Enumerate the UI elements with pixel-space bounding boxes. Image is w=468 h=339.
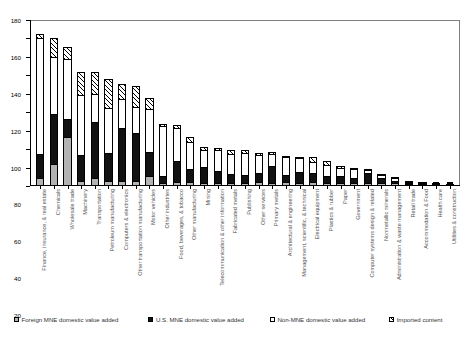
legend-swatch-nonmne xyxy=(270,317,275,322)
bar-segment-usmne xyxy=(64,120,70,138)
bar-segment-nonmne xyxy=(78,96,84,156)
bar-segment-foreign xyxy=(160,184,166,185)
bar-8 xyxy=(145,98,153,186)
x-label-15: Publishing xyxy=(247,189,253,215)
x-label-8: Motor vehicles xyxy=(151,189,157,225)
bar-slot xyxy=(279,20,293,186)
bar-21 xyxy=(323,161,331,186)
bar-slot xyxy=(416,20,430,186)
bar-segment-usmne xyxy=(419,184,425,185)
x-label-25: Nonmetallic minerals xyxy=(384,189,390,241)
bar-11 xyxy=(186,137,194,186)
bar-segment-nonmne xyxy=(296,159,302,173)
bar-segment-foreign xyxy=(269,184,275,185)
bar-slot xyxy=(402,20,416,186)
bar-segment-nonmne xyxy=(283,158,289,177)
legend-item-foreign: Foreign MNE domestic value added xyxy=(14,316,118,323)
bar-segment-imported xyxy=(146,99,152,110)
bar-segment-usmne xyxy=(283,176,289,183)
plot-area: 020406080100120140160180 xyxy=(30,20,460,186)
y-tick-label-180: 180 xyxy=(11,18,21,24)
x-label-13: Telecommunication & other information xyxy=(220,189,226,286)
bar-slot xyxy=(388,20,402,186)
bar-segment-usmne xyxy=(296,173,302,184)
bar-segment-nonmne xyxy=(187,143,193,170)
x-label-22: Paper xyxy=(343,189,349,204)
bar-segment-usmne xyxy=(228,175,234,184)
bar-segment-foreign xyxy=(392,184,398,185)
bar-segment-foreign xyxy=(201,184,207,185)
legend-swatch-usmne xyxy=(148,317,153,322)
bar-14 xyxy=(227,150,235,186)
x-label-2: Wholesale trade xyxy=(70,189,76,229)
bar-segment-nonmne xyxy=(133,108,139,133)
bar-slot xyxy=(61,20,75,186)
bar-segment-usmne xyxy=(215,172,221,184)
bar-slot xyxy=(33,20,47,186)
bar-26 xyxy=(391,177,399,186)
bar-segment-usmne xyxy=(160,177,166,184)
bar-segment-nonmne xyxy=(119,100,125,129)
bar-4 xyxy=(91,72,99,186)
bar-25 xyxy=(377,174,385,186)
bar-slot xyxy=(320,20,334,186)
bar-segment-imported xyxy=(119,85,125,100)
bar-series-group xyxy=(30,20,460,186)
bar-16 xyxy=(255,153,263,186)
bar-segment-usmne xyxy=(310,174,316,183)
x-label-24: Computer systems design & related xyxy=(370,189,376,278)
bar-segment-usmne xyxy=(37,155,43,179)
legend-item-nonmne: Non-MNE domestic value added xyxy=(270,316,365,323)
bar-segment-foreign xyxy=(105,182,111,185)
bar-segment-nonmne xyxy=(92,95,98,123)
legend-swatch-imported xyxy=(389,317,394,322)
bar-segment-foreign xyxy=(242,184,248,185)
y-tick-label-120: 120 xyxy=(11,129,21,135)
bar-12 xyxy=(200,147,208,186)
bar-segment-foreign xyxy=(351,184,357,185)
bar-segment-usmne xyxy=(133,134,139,183)
bar-slot xyxy=(293,20,307,186)
x-label-3: Machinery xyxy=(83,189,89,215)
bar-slot xyxy=(375,20,389,186)
bar-slot xyxy=(429,20,443,186)
bar-segment-nonmne xyxy=(201,151,207,168)
bar-segment-usmne xyxy=(174,162,180,183)
legend-label-nonmne: Non-MNE domestic value added xyxy=(277,316,365,323)
bar-segment-usmne xyxy=(242,176,248,184)
bar-segment-usmne xyxy=(256,174,262,184)
bar-slot xyxy=(443,20,457,186)
bar-segment-nonmne xyxy=(228,155,234,176)
legend-label-usmne: U.S. MNE domestic value added xyxy=(156,316,244,323)
bar-segment-nonmne xyxy=(160,127,166,177)
bar-segment-foreign xyxy=(174,183,180,185)
bar-slot xyxy=(238,20,252,186)
x-label-18: Architectural & engineering xyxy=(288,189,294,256)
bar-segment-usmne xyxy=(146,153,152,177)
x-label-14: Fabricated metals xyxy=(233,189,239,233)
x-label-1: Chemicals xyxy=(56,189,62,215)
bar-segment-usmne xyxy=(78,156,84,182)
x-label-27: Retail trade xyxy=(411,189,417,218)
bar-23 xyxy=(350,168,358,186)
bar-segment-foreign xyxy=(78,182,84,185)
bar-segment-usmne xyxy=(324,177,330,184)
bar-20 xyxy=(309,157,317,186)
bar-segment-foreign xyxy=(51,165,57,185)
bar-15 xyxy=(241,150,249,186)
bar-9 xyxy=(159,124,167,186)
bar-22 xyxy=(336,166,344,186)
bar-segment-imported xyxy=(78,73,84,97)
bar-segment-foreign xyxy=(296,184,302,185)
bar-segment-foreign xyxy=(133,182,139,185)
y-tick-label-100: 100 xyxy=(11,165,21,171)
bar-segment-nonmne xyxy=(324,166,330,178)
bar-segment-usmne xyxy=(105,154,111,182)
x-label-28: Accommodation & Food xyxy=(424,189,430,249)
bar-segment-nonmne xyxy=(51,58,57,115)
bar-segment-nonmne xyxy=(351,170,357,179)
bar-slot xyxy=(47,20,61,186)
bar-segment-foreign xyxy=(324,184,330,185)
bar-segment-imported xyxy=(92,73,98,96)
x-label-19: Management, scientific, & technical xyxy=(302,189,308,277)
